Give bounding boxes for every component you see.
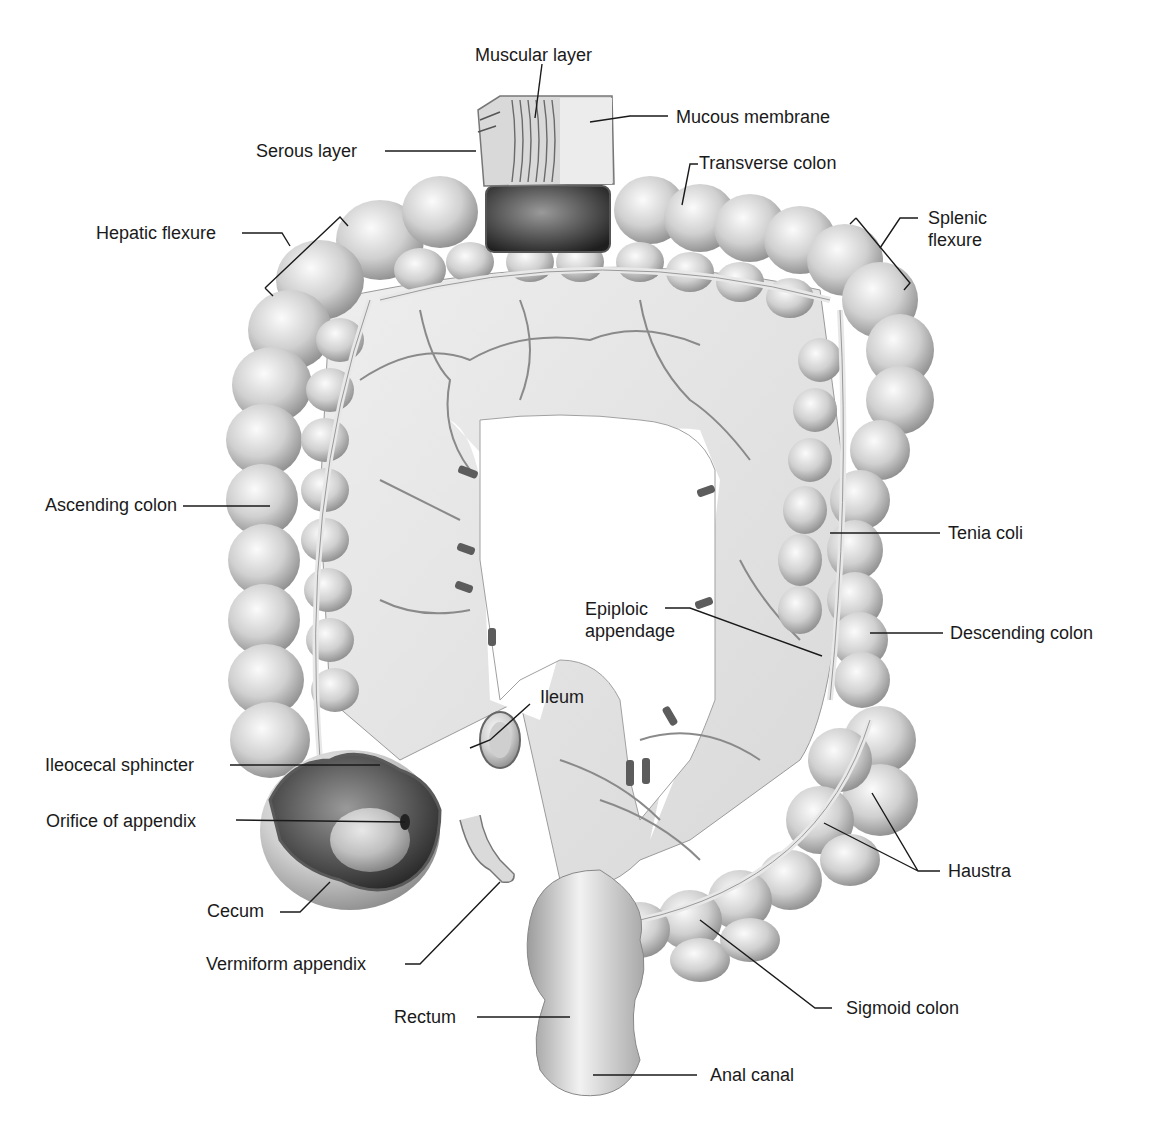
label-haustra: Haustra xyxy=(948,860,1011,882)
label-orifice-of-appendix: Orifice of appendix xyxy=(46,810,196,832)
label-serous-layer: Serous layer xyxy=(256,140,357,162)
ileum-shape xyxy=(460,712,520,882)
label-cecum: Cecum xyxy=(207,900,264,922)
label-tenia-coli: Tenia coli xyxy=(948,522,1023,544)
label-mucous-membrane: Mucous membrane xyxy=(676,106,830,128)
label-splenic-flexure-line1: Splenic xyxy=(928,207,987,229)
label-descending-colon: Descending colon xyxy=(950,622,1093,644)
label-transverse-colon: Transverse colon xyxy=(699,152,836,174)
large-intestine-illustration xyxy=(0,0,1158,1128)
wall-layers-cutaway xyxy=(478,96,614,186)
label-ascending-colon: Ascending colon xyxy=(45,494,177,516)
label-vermiform-appendix: Vermiform appendix xyxy=(206,953,366,975)
label-ileocecal-sphincter: Ileocecal sphincter xyxy=(45,754,194,776)
label-muscular-layer: Muscular layer xyxy=(475,44,592,66)
label-epiploic-appendage-line1: Epiploic xyxy=(585,598,675,620)
label-sigmoid-colon: Sigmoid colon xyxy=(846,997,959,1019)
label-splenic-flexure: Splenic flexure xyxy=(928,207,987,251)
label-rectum: Rectum xyxy=(394,1006,456,1028)
cecum-shape xyxy=(260,750,440,910)
label-hepatic-flexure: Hepatic flexure xyxy=(96,222,216,244)
label-anal-canal: Anal canal xyxy=(710,1064,794,1086)
label-ileum: Ileum xyxy=(540,686,584,708)
label-splenic-flexure-line2: flexure xyxy=(928,229,987,251)
label-epiploic-appendage-line2: appendage xyxy=(585,620,675,642)
label-epiploic-appendage: Epiploic appendage xyxy=(585,598,675,642)
rectum-shape xyxy=(527,870,644,1096)
